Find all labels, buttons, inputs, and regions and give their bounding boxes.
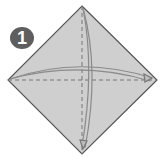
step-number-badge: 1 [10, 27, 34, 49]
origami-diagram [0, 0, 164, 157]
